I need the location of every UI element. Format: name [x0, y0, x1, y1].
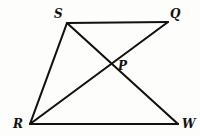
segment-rq [30, 22, 168, 124]
segment-sw [67, 23, 178, 124]
vertex-label-r: R [13, 118, 23, 130]
vertex-label-q: Q [170, 8, 180, 20]
vertex-label-p: P [118, 60, 127, 72]
geometry-figure: S Q P R W [0, 0, 200, 136]
segment-sq [67, 22, 168, 23]
vertex-label-w: W [182, 118, 195, 130]
vertex-label-s: S [54, 8, 63, 20]
segment-sr [30, 23, 67, 124]
